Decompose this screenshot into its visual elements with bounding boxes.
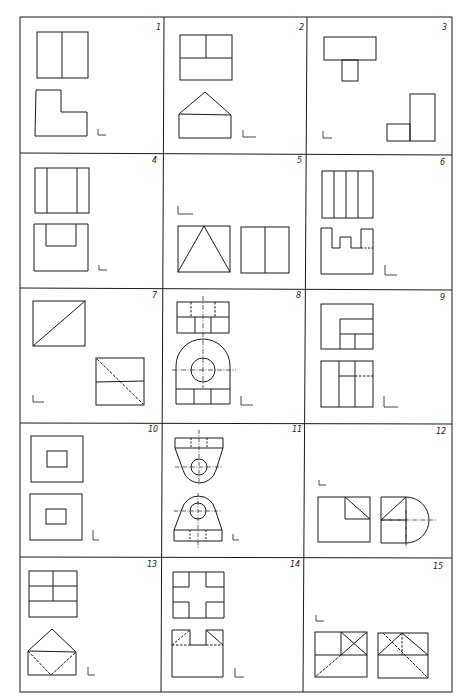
axis-marker-icon: [319, 480, 326, 485]
grid-divider: [20, 423, 452, 424]
cell-number: 6: [440, 158, 445, 167]
cell-number: 14: [290, 560, 300, 569]
cell-number: 15: [433, 562, 443, 571]
figure-8: [172, 296, 253, 405]
cell-number: 10: [148, 425, 158, 434]
axis-marker-icon: [88, 667, 95, 675]
figure-5: [178, 206, 289, 273]
figure-7: [33, 301, 144, 405]
axis-marker-icon: [323, 131, 332, 138]
figure-2: [179, 35, 256, 138]
axis-marker-icon: [178, 206, 193, 214]
figure-14: [172, 572, 244, 677]
cell-number: 2: [299, 23, 304, 32]
cell-numbers: 1 2 3 4 5 6 7 8 9 10 11 12 13 14 15: [147, 23, 447, 571]
grid-divider: [20, 288, 452, 290]
axis-marker-icon: [385, 265, 397, 275]
cell-number: 11: [292, 425, 302, 434]
axis-marker-icon: [235, 668, 244, 677]
figure-12: [318, 480, 437, 548]
grid-divider: [161, 17, 164, 692]
axis-marker-icon: [316, 615, 324, 621]
figure-4: [34, 168, 107, 271]
cell-number: 13: [147, 560, 157, 569]
figure-13: [28, 571, 95, 675]
cell-number: 1: [156, 23, 161, 32]
cell-number: 3: [442, 23, 447, 32]
axis-marker-icon: [243, 130, 256, 137]
cell-number: 4: [152, 156, 157, 165]
grid-divider: [20, 153, 452, 155]
cell-number: 7: [152, 291, 158, 300]
grid-divider: [303, 17, 307, 692]
figure-15: [315, 615, 428, 678]
cell-number: 8: [296, 291, 301, 300]
axis-marker-icon: [98, 129, 106, 135]
axis-marker-icon: [384, 396, 398, 407]
axis-marker-icon: [33, 395, 44, 402]
sheet-frame: [20, 17, 452, 692]
drawing-sheet: 1 2 3 4 5 6 7 8 9 10 11 12 13 14 15: [0, 0, 464, 700]
axis-marker-icon: [241, 396, 253, 405]
figure-11: [174, 430, 239, 548]
cell-number: 5: [297, 156, 302, 165]
figure-9: [321, 304, 398, 407]
figure-10: [30, 436, 99, 540]
figure-3: [323, 37, 435, 141]
cell-number: 9: [440, 293, 445, 302]
cell-number: 12: [436, 427, 446, 436]
axis-marker-icon: [99, 265, 107, 270]
figure-6: [321, 171, 397, 275]
grid-divider: [20, 557, 452, 558]
axis-marker-icon: [233, 534, 239, 540]
figure-1: [35, 32, 106, 136]
axis-marker-icon: [93, 530, 99, 540]
